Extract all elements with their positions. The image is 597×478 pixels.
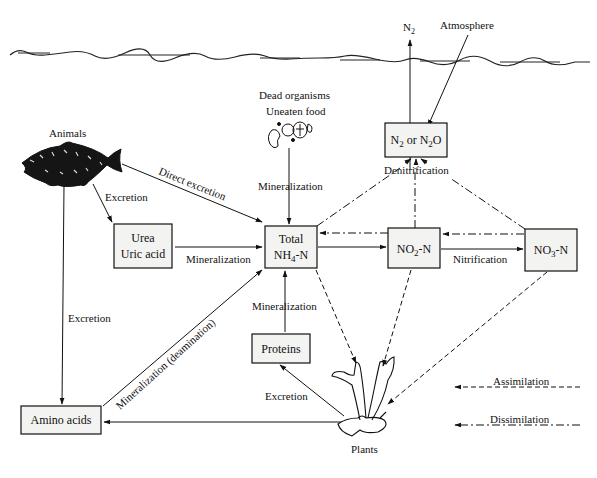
svg-text:Proteins: Proteins <box>261 342 301 356</box>
animals-label: Animals <box>49 127 86 139</box>
fish-icon <box>22 142 122 187</box>
excretion-urea-label: Excretion <box>105 191 148 203</box>
plants-icon <box>332 357 394 436</box>
node-proteins: Proteins <box>252 334 310 363</box>
no3-to-denitrification-line <box>450 178 525 229</box>
atmosphere-label: Atmosphere <box>440 19 494 31</box>
node-amino-acids: Amino acids <box>21 406 101 434</box>
plants-label: Plants <box>351 443 378 455</box>
svg-text:Amino acids: Amino acids <box>31 413 92 427</box>
svg-text:Urea: Urea <box>131 231 155 245</box>
legend-dissimilation-label: Dissimilation <box>490 413 550 425</box>
n2-label: N2 <box>403 21 415 36</box>
mineralization-deamination-label: Mineralization (deamination) <box>113 316 218 412</box>
excretion-to-urea-arrow <box>93 184 112 222</box>
svg-text:N2 or N2O: N2 or N2O <box>390 133 441 149</box>
node-no2: NO2-N <box>388 228 440 268</box>
node-no3: NO3-N <box>525 229 577 271</box>
svg-text:Total: Total <box>279 232 304 246</box>
excretion-animals-label: Excretion <box>68 312 111 324</box>
legend-assimilation-label: Assimilation <box>493 375 550 387</box>
node-total-nh4: Total NH4-N <box>265 226 317 268</box>
animals-to-amino-acids-arrow <box>62 185 64 404</box>
mineralization-dead-label: Mineralization <box>258 180 323 192</box>
nh4-to-denitrification-line <box>317 168 400 226</box>
denitrification-label: Denitrification <box>384 164 449 176</box>
node-urea: Urea Uric acid <box>114 224 172 268</box>
mineralization-urea-label: Mineralization <box>186 253 251 265</box>
water-surface <box>10 49 590 66</box>
svg-text:Uric acid: Uric acid <box>121 247 165 261</box>
denit-arrowhead-right <box>421 159 427 163</box>
legend: Assimilation Dissimilation <box>455 375 580 425</box>
mineralization-proteins-label: Mineralization <box>252 300 317 312</box>
atmosphere-arrow <box>428 35 468 126</box>
uneaten-food-label: Uneaten food <box>266 105 326 117</box>
no2-assimilation-arrow <box>383 270 411 366</box>
nitrogen-cycle-diagram: N2 Atmosphere Dead organisms Uneaten foo… <box>0 0 597 478</box>
excretion-plants-label: Excretion <box>265 390 308 402</box>
dead-organisms-label: Dead organisms <box>259 89 330 101</box>
direct-excretion-label: Direct excretion <box>157 165 228 203</box>
nitrification-label: Nitrification <box>453 253 508 265</box>
detritus-icon <box>268 122 312 148</box>
deamination-arrow <box>103 270 262 406</box>
node-n2-n2o: N2 or N2O <box>385 123 447 157</box>
nh4-assimilation-arrow <box>316 270 356 363</box>
